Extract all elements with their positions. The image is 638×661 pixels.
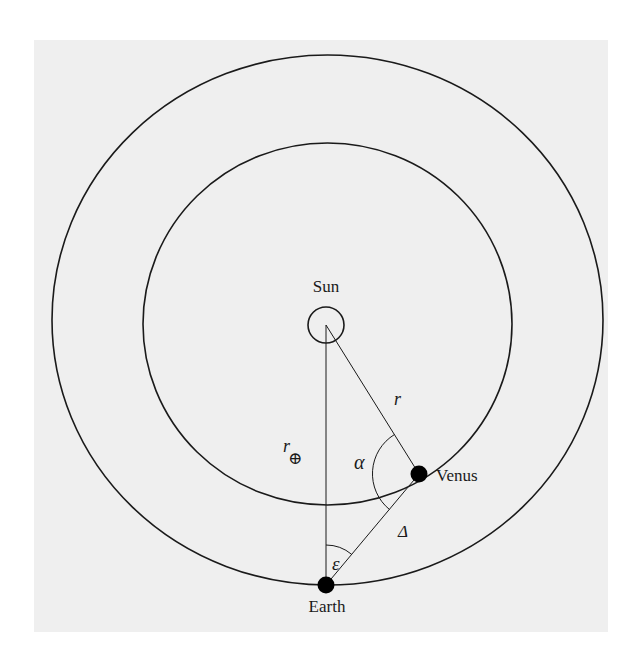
venus-elongation-diagram: Sun Venus Earth r r ⊕ α ε Δ <box>0 0 638 661</box>
earth-symbol-subscript: ⊕ <box>288 449 302 468</box>
figure-background <box>34 40 608 632</box>
venus-label: Venus <box>436 466 478 485</box>
sun-label: Sun <box>313 277 340 296</box>
epsilon-label: ε <box>332 553 340 574</box>
venus-icon <box>411 466 428 483</box>
earth-label: Earth <box>309 597 346 616</box>
alpha-label: α <box>354 451 365 473</box>
earth-icon <box>318 577 335 594</box>
r-venus-label: r <box>394 389 402 409</box>
delta-label: Δ <box>397 522 408 541</box>
